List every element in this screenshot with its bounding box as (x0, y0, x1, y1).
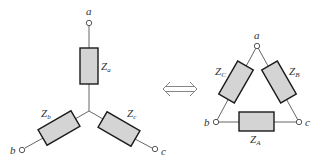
wye-wire-c-outer (135, 139, 152, 148)
delta-label-b: b (204, 116, 210, 128)
wye-wire-c-inner (89, 111, 103, 119)
delta-network: a b c ZA ZB ZC (204, 29, 310, 147)
wye-label-b: b (10, 144, 16, 156)
wye-wire-b-outer (25, 138, 43, 148)
wye-terminal-c (152, 146, 157, 151)
wye-label-a: a (86, 5, 92, 17)
delta-label-za: ZA (250, 133, 261, 147)
wye-label-za: Za (101, 60, 111, 74)
wye-terminal-a (86, 20, 91, 25)
wye-terminal-b (19, 147, 24, 152)
delta-label-c: c (305, 116, 310, 128)
wye-delta-diagram: a b Za Zb Zc a b c ZA ZB ZC c (0, 0, 321, 166)
delta-terminal-c (296, 119, 301, 124)
delta-label-a: a (254, 29, 260, 41)
wye-wire-b-inner (75, 111, 89, 119)
delta-label-zc: ZC (215, 65, 226, 79)
wye-label-zc: Zc (127, 107, 137, 121)
delta-terminal-b (213, 119, 218, 124)
delta-terminal-a (254, 43, 259, 48)
wye-impedance-za (80, 48, 98, 84)
wye-network: a b Za Zb Zc (10, 5, 158, 156)
delta-label-zb: ZB (289, 65, 300, 79)
wye-label-zb: Zb (41, 107, 51, 121)
wye-label-c: c (161, 145, 166, 157)
double-arrow-icon (163, 82, 197, 96)
delta-impedance-za (239, 112, 274, 131)
delta-impedance-zc (219, 61, 254, 103)
